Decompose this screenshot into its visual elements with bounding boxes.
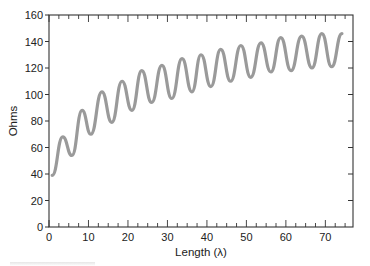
impedance-line bbox=[52, 34, 342, 176]
x-tick-label: 70 bbox=[319, 231, 331, 243]
x-tick-label: 40 bbox=[201, 231, 213, 243]
y-axis-label: Ohms bbox=[7, 105, 19, 136]
x-tick-label: 20 bbox=[122, 231, 134, 243]
y-tick-label: 100 bbox=[25, 89, 43, 101]
x-tick-label: 0 bbox=[46, 231, 52, 243]
y-tick-label: 20 bbox=[31, 195, 43, 207]
data-series bbox=[52, 34, 342, 176]
x-axis-label: Length (λ) bbox=[175, 246, 227, 258]
y-tick-label: 40 bbox=[31, 168, 43, 180]
figure-caption-cutoff bbox=[10, 262, 95, 266]
x-tick-label: 50 bbox=[240, 231, 252, 243]
y-tick-label: 160 bbox=[25, 9, 43, 21]
y-tick-label: 140 bbox=[25, 36, 43, 48]
x-tick-label: 10 bbox=[82, 231, 94, 243]
x-tick-label: 30 bbox=[161, 231, 173, 243]
y-tick-label: 120 bbox=[25, 62, 43, 74]
y-tick-label: 80 bbox=[31, 115, 43, 127]
x-axis-ticks: 010203040506070 bbox=[46, 15, 345, 243]
y-tick-label: 60 bbox=[31, 142, 43, 154]
y-tick-label: 0 bbox=[37, 221, 43, 233]
x-tick-label: 60 bbox=[280, 231, 292, 243]
impedance-chart: 020406080100120140160 010203040506070 Oh… bbox=[0, 0, 370, 266]
